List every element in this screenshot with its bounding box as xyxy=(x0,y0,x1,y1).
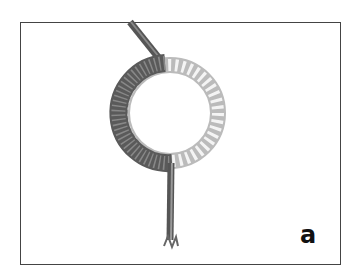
wrapped-ring xyxy=(118,63,172,163)
figure-label: a xyxy=(300,223,316,247)
